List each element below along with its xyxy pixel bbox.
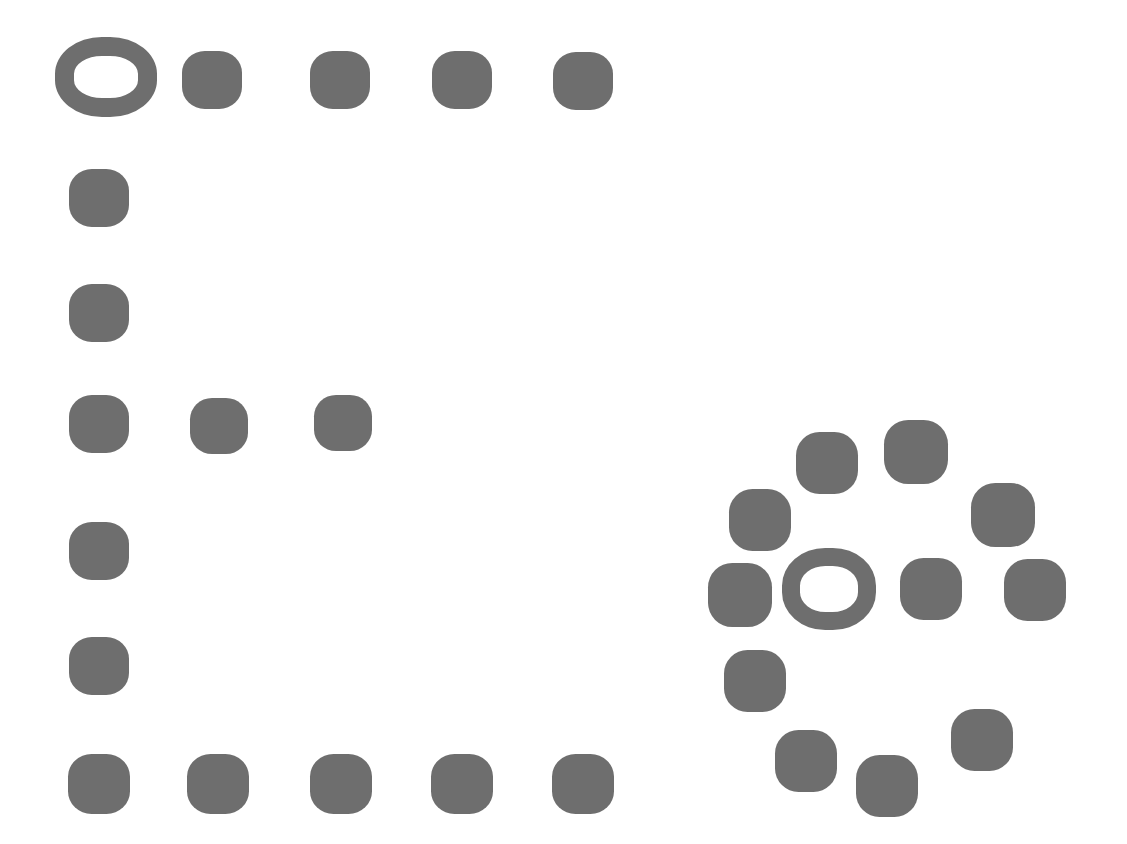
ring-group	[0, 0, 1127, 844]
diagram-canvas	[0, 0, 1127, 844]
ring-marker-cluster-center-ring	[782, 548, 876, 630]
ring-marker-left-corner-ring	[55, 37, 157, 117]
